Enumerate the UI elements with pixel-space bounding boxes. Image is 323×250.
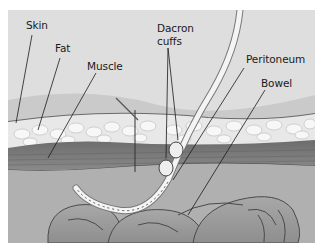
label-dacron-line2: cuffs xyxy=(157,35,182,47)
label-fat: Fat xyxy=(55,42,70,54)
label-muscle: Muscle xyxy=(87,60,123,72)
label-skin: Skin xyxy=(26,19,48,31)
label-bowel: Bowel xyxy=(261,77,292,89)
dacron-cuff-lower xyxy=(159,160,173,176)
dacron-cuff-upper xyxy=(169,142,183,158)
label-dacron-line1: Dacron xyxy=(157,22,194,34)
label-peritoneum: Peritoneum xyxy=(246,53,305,65)
anatomy-illustration: Skin Fat Muscle Dacron cuffs Peritoneum … xyxy=(8,10,315,243)
